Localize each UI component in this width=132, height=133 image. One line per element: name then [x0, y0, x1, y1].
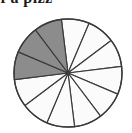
- pie-chart: [0, 0, 132, 133]
- figure-container: ces of a pizz: [0, 0, 132, 133]
- pie-center-point: [66, 71, 69, 74]
